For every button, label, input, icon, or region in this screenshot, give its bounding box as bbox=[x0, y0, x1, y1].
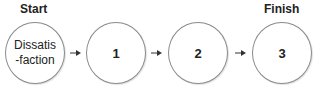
arrow-right-icon bbox=[151, 49, 163, 57]
arrow-right-icon bbox=[235, 49, 247, 57]
node-step-1: 1 bbox=[86, 22, 146, 84]
start-label: Start bbox=[20, 2, 47, 16]
node-label: 2 bbox=[194, 46, 201, 61]
node-dissatisfaction: Dissatis -faction bbox=[5, 22, 65, 84]
node-step-3: 3 bbox=[252, 22, 312, 84]
node-label: 3 bbox=[278, 46, 285, 61]
node-step-2: 2 bbox=[168, 22, 228, 84]
arrow-right-icon bbox=[70, 49, 82, 57]
finish-label: Finish bbox=[264, 2, 299, 16]
node-label: 1 bbox=[112, 46, 119, 61]
node-label: Dissatis -faction bbox=[14, 38, 56, 68]
